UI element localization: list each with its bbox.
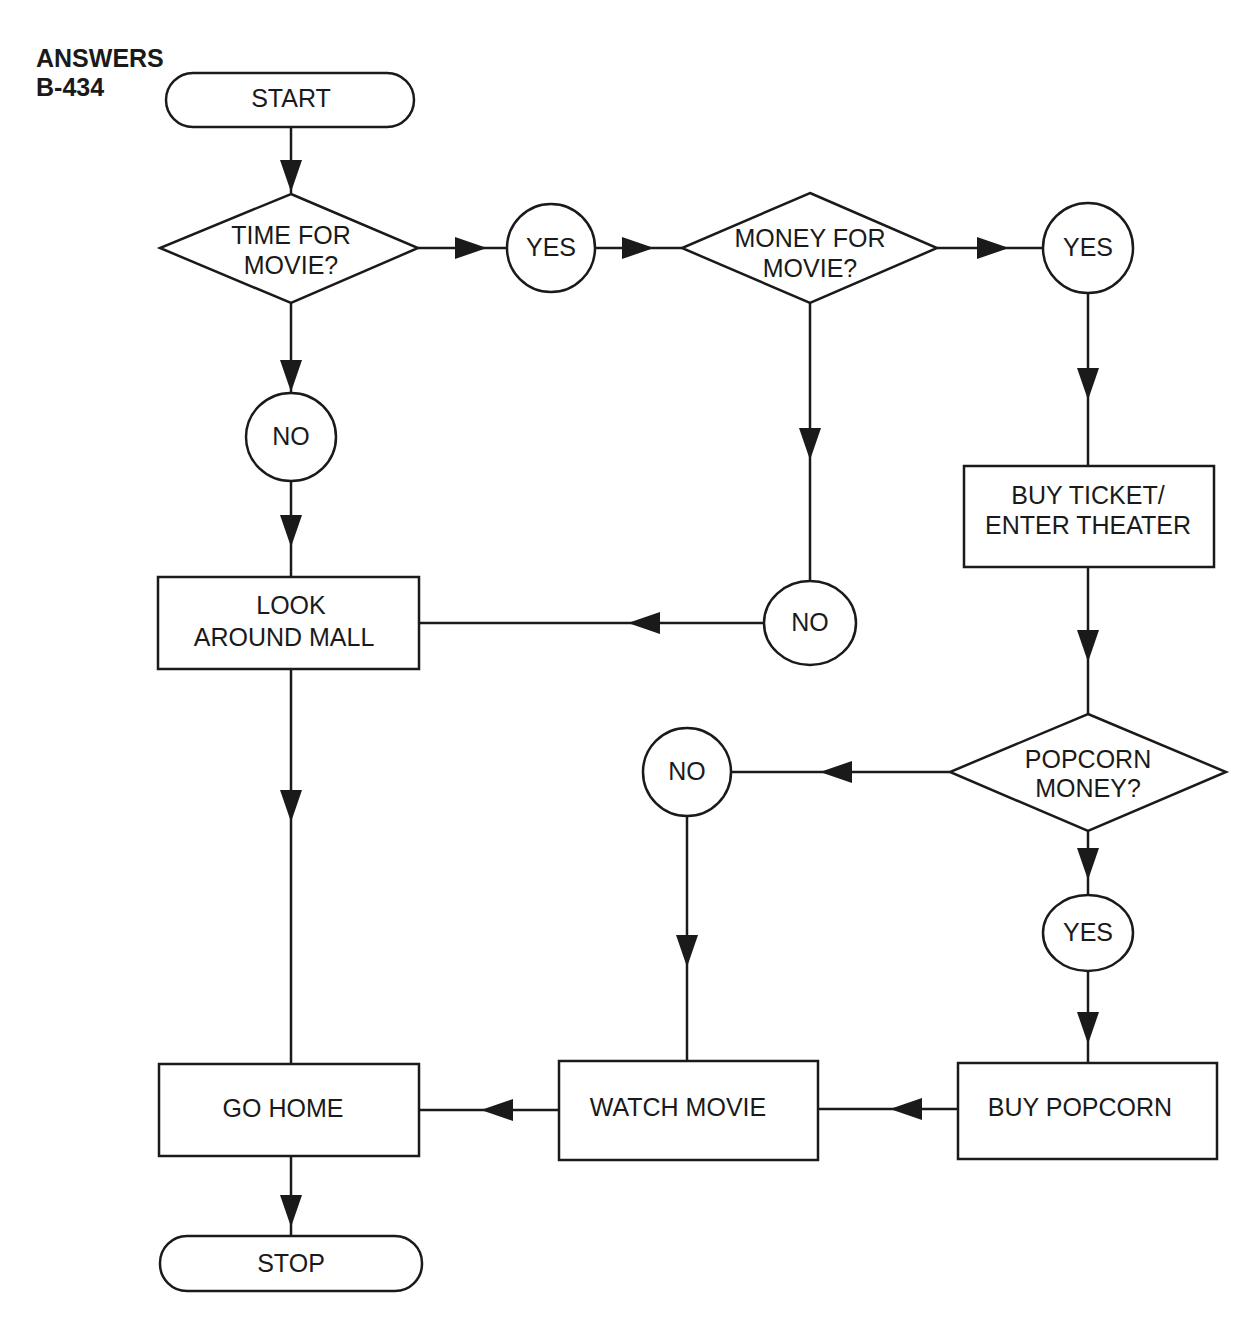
buy-popcorn-process: BUY POPCORN [958, 1063, 1217, 1159]
money-decision-line2: MOVIE? [763, 254, 857, 282]
buy-ticket-line1: BUY TICKET/ [1011, 481, 1164, 509]
no-money-connector: NO [764, 581, 856, 665]
yes-time-label: YES [526, 233, 576, 261]
arrow-down-icon [280, 515, 302, 547]
arrow-left-icon [481, 1099, 513, 1121]
arrow-right-icon [977, 237, 1009, 259]
arrow-down-icon [280, 790, 302, 822]
no-money-label: NO [791, 608, 829, 636]
yes-time-connector: YES [507, 204, 595, 292]
look-around-line2: AROUND MALL [194, 623, 375, 651]
yes-popcorn-label: YES [1063, 918, 1113, 946]
buy-popcorn-label: BUY POPCORN [988, 1093, 1172, 1121]
arrow-down-icon [676, 935, 698, 967]
popcorn-decision-line1: POPCORN [1025, 745, 1151, 773]
stop-label: STOP [257, 1249, 325, 1277]
time-for-movie-decision: TIME FOR MOVIE? [160, 194, 418, 303]
popcorn-decision-line2: MONEY? [1035, 774, 1141, 802]
no-popcorn-connector: NO [643, 728, 731, 816]
arrow-left-icon [890, 1098, 922, 1120]
arrow-down-icon [280, 160, 302, 192]
look-around-line1: LOOK [256, 591, 326, 619]
arrow-left-icon [820, 761, 852, 783]
arrow-left-icon [628, 612, 660, 634]
look-around-mall-process: LOOK AROUND MALL [158, 577, 419, 669]
buy-ticket-line2: ENTER THEATER [985, 511, 1191, 539]
money-decision-line1: MONEY FOR [735, 224, 886, 252]
arrow-down-icon [799, 428, 821, 460]
arrow-down-icon [1077, 848, 1099, 880]
yes-money-label: YES [1063, 233, 1113, 261]
no-time-label: NO [272, 422, 310, 450]
watch-movie-label: WATCH MOVIE [590, 1093, 766, 1121]
stop-terminal: STOP [160, 1236, 422, 1291]
go-home-process: GO HOME [159, 1064, 419, 1156]
arrow-right-icon [455, 237, 487, 259]
no-time-connector: NO [246, 393, 336, 481]
time-decision-line2: MOVIE? [244, 251, 338, 279]
flowchart: START TIME FOR MOVIE? YES MONEY FOR MOVI… [0, 0, 1259, 1318]
arrow-down-icon [280, 360, 302, 392]
start-label: START [251, 84, 331, 112]
no-popcorn-label: NO [668, 757, 706, 785]
arrow-down-icon [1077, 630, 1099, 662]
arrow-right-icon [622, 237, 654, 259]
yes-popcorn-connector: YES [1043, 895, 1133, 971]
arrow-down-icon [1077, 368, 1099, 400]
yes-money-connector: YES [1043, 203, 1133, 293]
popcorn-money-decision: POPCORN MONEY? [950, 714, 1226, 831]
watch-movie-process: WATCH MOVIE [559, 1061, 818, 1160]
arrow-down-icon [280, 1195, 302, 1227]
time-decision-line1: TIME FOR [231, 221, 350, 249]
go-home-label: GO HOME [223, 1094, 344, 1122]
money-for-movie-decision: MONEY FOR MOVIE? [682, 193, 937, 303]
arrow-down-icon [1077, 1012, 1099, 1044]
buy-ticket-process: BUY TICKET/ ENTER THEATER [964, 466, 1214, 567]
start-terminal: START [166, 73, 414, 127]
